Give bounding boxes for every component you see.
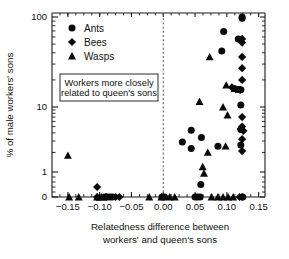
x-tick-label: −0.15 [56,201,80,212]
x-tick-label: 0.05 [186,201,205,212]
data-point-bees [238,113,246,121]
data-point-wasps [222,81,230,88]
data-point-bees [68,38,76,46]
data-point-wasps [219,103,227,110]
annotation-line-2: related to queen's sons [61,88,157,98]
y-tick-label: 10 [36,101,47,112]
data-point-wasps [204,148,212,155]
data-point-wasps [64,151,72,158]
data-point-ants [188,127,195,134]
data-point-ants [239,15,246,22]
data-point-ants [69,25,76,32]
data-point-ants [214,143,221,150]
data-point-ants [237,142,244,149]
data-point-ants [237,102,244,109]
data-point-wasps [223,111,231,118]
plot-canvas: −0.15−0.10−0.050.000.050.100.150110100Wo… [0,0,289,259]
data-point-bees [238,64,246,72]
data-point-ants [179,138,186,145]
data-point-ants [198,134,205,141]
y-tick-label: 0 [42,191,47,202]
data-point-bees [93,183,101,191]
legend-label-ants: Ants [84,23,104,34]
x-tick-label: −0.10 [88,201,112,212]
data-point-ants [220,28,227,35]
x-tick-label: 0.00 [154,201,173,212]
scatter-plot-figure: −0.15−0.10−0.050.000.050.100.150110100Wo… [0,0,289,259]
data-point-wasps [196,98,204,105]
data-point-wasps [68,52,76,59]
data-point-ants [197,181,204,188]
x-tick-label: 0.10 [218,201,237,212]
annotation-line-1: Workers more closely [64,78,154,88]
x-axis-title-line-2: workers' and queen's sons [102,234,217,245]
y-tick-label: 1 [42,166,47,177]
x-tick-label: 0.15 [249,201,268,212]
data-point-bees [238,147,246,155]
y-axis-title: % of male workers' sons [4,53,15,158]
y-tick-label: 100 [31,11,47,22]
data-point-wasps [200,169,208,176]
data-point-ants [197,194,204,201]
data-point-wasps [222,142,230,149]
data-point-ants [188,145,195,152]
data-point-wasps [206,53,214,60]
data-point-bees [238,53,246,61]
data-point-wasps [199,163,207,170]
x-axis-title-line-1: Relatedness difference between [91,221,229,232]
x-tick-label: −0.05 [119,201,143,212]
data-point-bees [238,76,246,84]
data-point-ants [218,47,225,54]
legend-label-wasps: Wasps [84,51,114,62]
legend-label-bees: Bees [84,37,107,48]
